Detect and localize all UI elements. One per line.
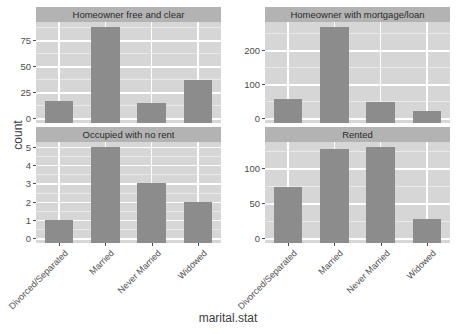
y-axis-tick-mark bbox=[33, 118, 36, 119]
gridline-major bbox=[265, 50, 450, 51]
y-axis-tick-mark bbox=[33, 165, 36, 166]
x-axis-tick-mark bbox=[152, 243, 153, 246]
y-axis-tick-label: 3 bbox=[0, 178, 31, 189]
facet-bar-chart: count marital.stat Homeowner free and cl… bbox=[0, 0, 456, 334]
facet-panel: Rented bbox=[265, 127, 450, 243]
y-axis-tick-mark bbox=[262, 238, 265, 239]
bar bbox=[413, 219, 442, 243]
bar bbox=[45, 220, 74, 243]
y-axis-tick-label: 100 bbox=[227, 163, 260, 174]
facet-strip-label: Rented bbox=[265, 127, 450, 142]
gridline-minor bbox=[265, 151, 450, 152]
y-axis-tick-label: 50 bbox=[227, 198, 260, 209]
plot-panel bbox=[265, 22, 450, 123]
y-axis-tick-label: 0 bbox=[0, 113, 31, 124]
y-axis-tick-mark bbox=[262, 50, 265, 51]
y-axis-tick-label: 1 bbox=[0, 215, 31, 226]
x-axis-tick-mark bbox=[381, 243, 382, 246]
bar bbox=[45, 101, 74, 123]
y-axis-tick-mark bbox=[33, 147, 36, 148]
bar bbox=[184, 80, 213, 123]
bar bbox=[184, 202, 213, 243]
x-axis-tick-mark bbox=[288, 243, 289, 246]
gridline-minor bbox=[36, 156, 221, 157]
gridline-minor bbox=[36, 27, 221, 28]
gridline-minor bbox=[265, 33, 450, 34]
x-axis-tick-mark bbox=[198, 243, 199, 246]
y-axis-tick-label: 4 bbox=[0, 159, 31, 170]
bar bbox=[413, 111, 442, 123]
y-axis-tick-label: 50 bbox=[0, 61, 31, 72]
y-axis-tick-label: 0 bbox=[227, 233, 260, 244]
y-axis-tick-mark bbox=[33, 183, 36, 184]
gridline-minor bbox=[36, 53, 221, 54]
x-axis-tick-mark bbox=[427, 243, 428, 246]
bar bbox=[320, 27, 349, 123]
y-axis-tick-mark bbox=[262, 118, 265, 119]
y-axis-tick-label: 25 bbox=[0, 87, 31, 98]
y-axis-tick-mark bbox=[33, 238, 36, 239]
gridline-vertical bbox=[426, 22, 427, 123]
y-axis-tick-mark bbox=[33, 92, 36, 93]
bar bbox=[137, 103, 166, 123]
bar bbox=[366, 147, 395, 243]
y-axis-tick-mark bbox=[33, 220, 36, 221]
bar bbox=[137, 183, 166, 243]
facet-panel: Homeowner free and clear bbox=[36, 7, 221, 123]
bar bbox=[91, 147, 120, 243]
bar bbox=[274, 99, 303, 123]
plot-panel bbox=[265, 142, 450, 243]
facet-strip-label: Homeowner free and clear bbox=[36, 7, 221, 22]
x-axis-tick-mark bbox=[59, 243, 60, 246]
gridline-major bbox=[36, 40, 221, 41]
gridline-major bbox=[36, 147, 221, 148]
y-axis-tick-label: 75 bbox=[0, 35, 31, 46]
facet-strip-label: Occupied with no rent bbox=[36, 127, 221, 142]
bar bbox=[274, 187, 303, 243]
x-axis-tick-mark bbox=[105, 243, 106, 246]
y-axis-tick-mark bbox=[33, 66, 36, 67]
y-axis-tick-mark bbox=[262, 168, 265, 169]
gridline-major bbox=[36, 183, 221, 184]
gridline-minor bbox=[36, 174, 221, 175]
y-axis-tick-mark bbox=[262, 84, 265, 85]
y-axis-tick-mark bbox=[33, 40, 36, 41]
y-axis-tick-label: 200 bbox=[227, 45, 260, 56]
gridline-major bbox=[265, 168, 450, 169]
gridline-minor bbox=[36, 193, 221, 194]
gridline-major bbox=[36, 165, 221, 166]
y-axis-tick-label: 2 bbox=[0, 196, 31, 207]
y-axis-tick-label: 5 bbox=[0, 141, 31, 152]
facet-panel: Homeowner with mortgage/loan bbox=[265, 7, 450, 123]
plot-panel bbox=[36, 22, 221, 123]
bar bbox=[366, 102, 395, 123]
bar bbox=[91, 27, 120, 123]
y-axis-tick-label: 0 bbox=[227, 113, 260, 124]
gridline-minor bbox=[265, 67, 450, 68]
facet-panel: Occupied with no rent bbox=[36, 127, 221, 243]
gridline-major bbox=[265, 84, 450, 85]
facet-strip-label: Homeowner with mortgage/loan bbox=[265, 7, 450, 22]
bar bbox=[320, 149, 349, 243]
plot-panel bbox=[36, 142, 221, 243]
x-axis-tick-mark bbox=[334, 243, 335, 246]
y-axis-tick-label: 100 bbox=[227, 79, 260, 90]
y-axis-tick-mark bbox=[33, 202, 36, 203]
gridline-major bbox=[36, 66, 221, 67]
y-axis-tick-mark bbox=[262, 203, 265, 204]
y-axis-tick-label: 0 bbox=[0, 233, 31, 244]
